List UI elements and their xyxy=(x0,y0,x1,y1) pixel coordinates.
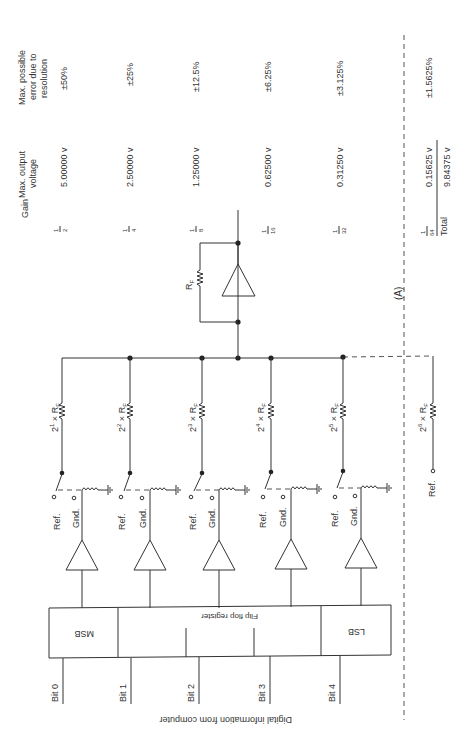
error-value: ±50% xyxy=(59,67,69,90)
bit-label: Bit 3 xyxy=(257,684,267,702)
ref-contact xyxy=(261,495,265,499)
gain-denominator: 32 xyxy=(341,227,347,234)
bit-branch-5: Ref. 26 × RF xyxy=(417,356,437,497)
gnd-label: Gnd. xyxy=(207,508,217,528)
ref-contact xyxy=(52,495,56,499)
buffer-amp xyxy=(203,540,235,570)
table-row: 0.15625 v ±1.5625% 1 64 xyxy=(420,58,435,236)
header-error-line1: Max. possible xyxy=(17,50,27,105)
voltage-value: 0.62500 v xyxy=(263,147,273,187)
bit-branch-4: Ref. Gnd. 25 × RF xyxy=(328,357,391,606)
error-value: ±25% xyxy=(125,63,135,86)
bit-label: Bit 4 xyxy=(327,684,337,702)
bit-branch-2: Ref. Gnd. 23 × RF xyxy=(187,358,249,608)
buffer-amp xyxy=(66,540,98,570)
resistor-label: 24 × RF xyxy=(255,403,267,432)
voltage-value: 0.15625 v xyxy=(424,147,434,187)
resistor-label: 23 × RF xyxy=(187,403,199,432)
gnd-contact xyxy=(140,496,144,500)
error-value: ±3.125% xyxy=(335,61,345,96)
gain-denominator: 64 xyxy=(429,229,435,236)
feedback-resistor-label: RF xyxy=(184,280,195,291)
bit-branch-1: Ref. Gnd. 22 × RF xyxy=(116,358,180,608)
ref-label: Ref. xyxy=(52,513,62,530)
switch-arm xyxy=(265,473,271,489)
error-value: ±6.25% xyxy=(263,62,273,92)
register-title: Flip flop register xyxy=(201,612,258,621)
relay-coil xyxy=(219,488,235,490)
input-caption: Digital information from computer xyxy=(159,715,292,725)
resistor-zigzag xyxy=(340,403,346,419)
relay-coil xyxy=(150,488,166,490)
table-row: 0.62500 v ±6.25% 1 16 xyxy=(261,62,276,234)
voltage-value: 0.31250 v xyxy=(335,147,345,187)
header-voltage-line1: Max. output xyxy=(17,150,27,198)
resistor-label: 25 × RF xyxy=(328,403,340,432)
lsb-label: LSB xyxy=(348,627,365,637)
msb-label: MSB xyxy=(74,629,94,639)
dac-schematic: Gain Max. output voltage Max. possible e… xyxy=(0,0,468,750)
gain-denominator: 16 xyxy=(270,227,276,234)
gain-numerator: 1 xyxy=(53,228,59,232)
gnd-label: Gnd. xyxy=(138,508,148,528)
gnd-contact xyxy=(72,496,76,500)
total-voltage: 9.84375 v xyxy=(442,147,452,187)
flip-flop-register: MSB LSB Flip flop register xyxy=(49,605,391,658)
header-voltage-line2: voltage xyxy=(28,159,38,188)
resistor-zigzag xyxy=(268,403,274,419)
gnd-contact xyxy=(353,494,357,498)
ref-contact xyxy=(189,495,193,499)
bit-branch-3: Ref. Gnd. 24 × RF xyxy=(255,358,321,607)
figure-label: (A) xyxy=(393,287,404,300)
resistor-label: 21 × RF xyxy=(49,403,61,432)
bit-label: Bit 0 xyxy=(50,684,60,702)
summing-bus xyxy=(62,242,433,361)
error-value: ±12.5% xyxy=(191,62,201,92)
table-row: 0.31250 v ±3.125% 1 32 xyxy=(332,61,347,234)
buffer-amp xyxy=(134,540,166,570)
relay-coil xyxy=(291,487,307,489)
resistor-zigzag xyxy=(430,403,436,419)
table-row: 5.00000 v ±50% 1 2 xyxy=(53,67,69,232)
error-value: ±1.5625% xyxy=(424,58,434,98)
buffer-amp xyxy=(275,539,307,569)
ref-label: Ref. xyxy=(117,513,127,530)
voltage-value: 2.50000 v xyxy=(125,147,135,187)
bit-branch-0: Ref. Gnd. 21 × RF xyxy=(49,358,112,608)
relay-coil xyxy=(361,486,377,488)
gain-denominator: 4 xyxy=(131,228,137,232)
bit-label: Bit 1 xyxy=(118,684,128,702)
table-row: 1.25000 v ±12.5% 1 8 xyxy=(189,62,204,232)
gain-numerator: 1 xyxy=(122,228,128,232)
ref-label: Ref. xyxy=(188,513,198,530)
ref-label: Ref. xyxy=(330,510,340,527)
resistor-zigzag xyxy=(199,403,205,419)
buffer-amp xyxy=(345,538,377,568)
switch-arm xyxy=(124,474,130,491)
total-label: Total xyxy=(439,217,449,236)
gain-denominator: 2 xyxy=(62,228,68,232)
relay-coil xyxy=(82,488,98,490)
gain-numerator: 1 xyxy=(189,228,195,232)
ref-contact xyxy=(431,469,435,473)
gnd-label: Gnd. xyxy=(349,506,359,526)
header-error-line3: resolution xyxy=(39,59,49,98)
ref-label: Ref. xyxy=(258,511,268,528)
ref-label: Ref. xyxy=(427,480,437,497)
voltage-value: 5.00000 v xyxy=(59,147,69,187)
input-bits: Bit 0 Bit 1 Bit 2 Bit 3 Bit 4 Digital in… xyxy=(50,656,340,725)
ref-contact xyxy=(333,495,337,499)
switch-arm xyxy=(337,472,343,488)
resistor-label: 26 × RF xyxy=(417,403,429,432)
switch-arm xyxy=(194,474,202,491)
feedback-resistor-zigzag xyxy=(197,270,203,286)
gain-denominator: 8 xyxy=(198,228,204,232)
bit-label: Bit 2 xyxy=(186,684,196,702)
output-op-amp: RF xyxy=(184,210,255,322)
table-headers: Gain Max. output voltage Max. possible e… xyxy=(17,50,49,218)
gain-numerator: 1 xyxy=(332,229,338,233)
gain-numerator: 1 xyxy=(420,230,426,234)
gnd-label: Gnd. xyxy=(278,507,288,527)
header-error-line2: error due to xyxy=(28,53,38,100)
gain-numerator: 1 xyxy=(261,229,267,233)
